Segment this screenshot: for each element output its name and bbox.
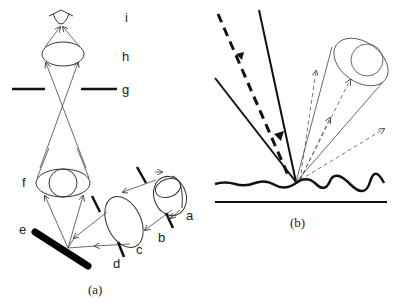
panel-a: i h g f a b c d e (a) bbox=[12, 10, 194, 297]
caption-b: (b) bbox=[290, 215, 305, 230]
panel-b: (b) bbox=[215, 10, 397, 230]
cone-edge-right bbox=[259, 10, 296, 182]
label-c: c bbox=[136, 242, 143, 257]
label-h: h bbox=[122, 49, 129, 64]
label-g: g bbox=[122, 82, 129, 97]
label-e: e bbox=[19, 222, 26, 237]
eyepiece-lens bbox=[42, 42, 84, 66]
label-i: i bbox=[125, 10, 128, 25]
label-a: a bbox=[186, 208, 194, 223]
scattered-rays bbox=[300, 71, 384, 180]
rough-surface bbox=[215, 174, 384, 191]
collection-cone bbox=[296, 28, 397, 182]
label-f: f bbox=[22, 175, 26, 190]
sample-surface bbox=[35, 232, 88, 266]
crossing-rays bbox=[37, 63, 89, 178]
diagram-canvas: i h g f a b c d e (a) bbox=[0, 0, 398, 307]
label-b: b bbox=[158, 230, 165, 245]
label-d: d bbox=[113, 256, 120, 271]
eye-icon bbox=[49, 10, 73, 24]
objective-lens bbox=[36, 169, 90, 197]
caption-a: (a) bbox=[88, 282, 102, 297]
